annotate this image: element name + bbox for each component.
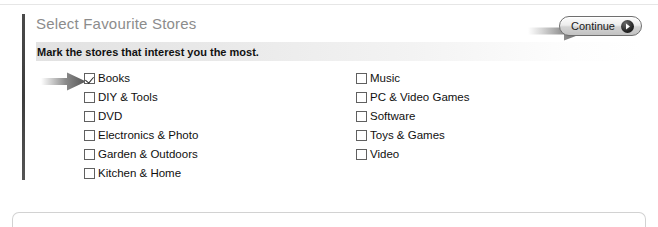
instruction-band: Mark the stores that interest you the mo… (36, 42, 642, 61)
store-column-right: Music PC & Video Games Software Toys & G… (356, 69, 470, 164)
checkbox-label-electronics-and-photo: Electronics & Photo (98, 130, 198, 142)
checkbox-label-music: Music (370, 73, 400, 85)
favourite-stores-panel: Select Favourite Stores Continue (22, 14, 642, 180)
page-title: Select Favourite Stores (36, 15, 197, 32)
checkbox-electronics-and-photo[interactable] (84, 130, 95, 141)
instruction-text: Mark the stores that interest you the mo… (36, 46, 259, 58)
top-divider (0, 4, 658, 5)
checkbox-label-software: Software (370, 111, 415, 123)
checkbox-row-dvd[interactable]: DVD (84, 107, 198, 126)
checkbox-music[interactable] (356, 73, 367, 84)
checkbox-row-diy-and-tools[interactable]: DIY & Tools (84, 88, 198, 107)
checkbox-label-kitchen-and-home: Kitchen & Home (98, 168, 181, 180)
checkbox-software[interactable] (356, 111, 367, 122)
checkbox-row-kitchen-and-home[interactable]: Kitchen & Home (84, 164, 198, 183)
continue-button-label: Continue (571, 21, 615, 32)
checkbox-pc-and-video-games[interactable] (356, 92, 367, 103)
checkbox-diy-and-tools[interactable] (84, 92, 95, 103)
checkbox-books[interactable] (84, 73, 95, 84)
continue-button[interactable]: Continue (559, 16, 642, 36)
checkbox-toys-and-games[interactable] (356, 130, 367, 141)
checkbox-row-pc-and-video-games[interactable]: PC & Video Games (356, 88, 470, 107)
panel-left-rule (22, 14, 25, 180)
panel-body: Select Favourite Stores Continue (36, 14, 642, 180)
checkbox-label-diy-and-tools: DIY & Tools (98, 92, 158, 104)
checkbox-row-software[interactable]: Software (356, 107, 470, 126)
checkbox-garden-and-outdoors[interactable] (84, 149, 95, 160)
checkbox-label-pc-and-video-games: PC & Video Games (370, 92, 470, 104)
panel-header: Select Favourite Stores Continue (36, 14, 642, 42)
checkbox-row-books[interactable]: Books (84, 69, 198, 88)
arrow-pointing-to-books-icon (41, 72, 87, 91)
checkbox-row-video[interactable]: Video (356, 145, 470, 164)
checkbox-label-dvd: DVD (98, 111, 122, 123)
store-checkbox-columns: Books DIY & Tools DVD Electronics & Phot… (36, 69, 642, 179)
checkbox-row-garden-and-outdoors[interactable]: Garden & Outdoors (84, 145, 198, 164)
checkbox-dvd[interactable] (84, 111, 95, 122)
checkbox-row-music[interactable]: Music (356, 69, 470, 88)
checkbox-video[interactable] (356, 149, 367, 160)
checkbox-kitchen-and-home[interactable] (84, 168, 95, 179)
bottom-panel-container (12, 212, 646, 227)
store-column-left: Books DIY & Tools DVD Electronics & Phot… (84, 69, 198, 183)
chevron-right-circle-icon (621, 20, 634, 33)
checkbox-label-video: Video (370, 149, 399, 161)
checkbox-label-toys-and-games: Toys & Games (370, 130, 445, 142)
checkbox-label-books: Books (98, 73, 130, 85)
checkbox-row-toys-and-games[interactable]: Toys & Games (356, 126, 470, 145)
checkbox-row-electronics-and-photo[interactable]: Electronics & Photo (84, 126, 198, 145)
checkbox-label-garden-and-outdoors: Garden & Outdoors (98, 149, 198, 161)
